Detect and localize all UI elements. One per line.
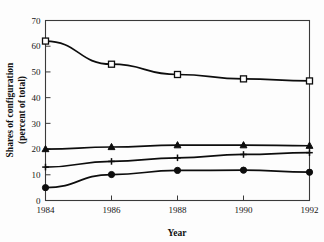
y-tick-label: 20 (32, 144, 42, 154)
x-axis-title: Year (168, 228, 188, 238)
y-tick-label: 60 (32, 41, 42, 51)
y-axis-tick-labels: 010203040506070 (32, 16, 42, 206)
chart-page: 010203040506070 19841986198819901992 Yea… (0, 0, 324, 242)
data-point-filled-circle (108, 171, 114, 177)
svg-text:Year: Year (168, 228, 188, 238)
y-axis-title: Shares of configuration (percent of tota… (5, 62, 28, 158)
x-tick-label: 1990 (235, 205, 254, 215)
x-tick-label: 1984 (37, 205, 56, 215)
data-point-open-square (109, 61, 115, 67)
x-tick-label: 1986 (103, 205, 122, 215)
series-filled-triangle (42, 142, 313, 152)
data-point-open-square (43, 38, 49, 44)
y-tick-label: 30 (32, 119, 42, 129)
y-tick-label: 50 (32, 67, 42, 77)
y-tick-label: 70 (32, 16, 42, 26)
series-layer (42, 38, 313, 191)
series-open-square (43, 38, 313, 84)
x-tick-label: 1992 (301, 205, 319, 215)
svg-text:(percent of total): (percent of total) (17, 76, 28, 144)
line-chart: 010203040506070 19841986198819901992 Yea… (0, 0, 324, 242)
x-axis-ticks (46, 196, 310, 201)
data-point-filled-circle (174, 167, 180, 173)
y-tick-label: 40 (32, 93, 42, 103)
y-tick-label: 10 (32, 170, 42, 180)
x-axis-tick-labels: 19841986198819901992 (37, 205, 319, 215)
series-filled-circle (42, 167, 312, 191)
data-point-open-square (307, 78, 313, 84)
svg-text:Shares of configuration: Shares of configuration (5, 62, 15, 158)
data-point-filled-circle (42, 185, 48, 191)
data-point-filled-circle (306, 169, 312, 175)
data-point-open-square (241, 76, 247, 82)
x-tick-label: 1988 (169, 205, 188, 215)
data-point-open-square (175, 72, 181, 78)
data-point-filled-circle (240, 167, 246, 173)
y-axis-ticks (46, 21, 51, 201)
